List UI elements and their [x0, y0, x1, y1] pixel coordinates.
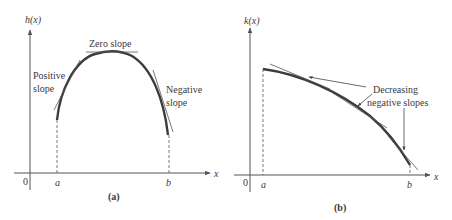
origin-label: 0: [243, 177, 248, 188]
a-label: a: [261, 179, 266, 190]
figure: h(x) x 0 a b Zero slope Positive slope N…: [0, 0, 452, 220]
a-label: a: [55, 177, 60, 188]
curve-h: [57, 51, 168, 135]
positive-slope-tangent: [54, 60, 80, 110]
negative-slopes-label: negative slopes: [367, 97, 428, 108]
positive-slope-label-2: slope: [33, 83, 55, 94]
negative-slope-label-1: Negative: [166, 84, 203, 95]
caption-a: (a): [108, 191, 120, 203]
origin-label: 0: [23, 176, 28, 187]
panel-a: h(x) x 0 a b Zero slope Positive slope N…: [14, 14, 219, 203]
x-axis-label: x: [213, 168, 219, 179]
b-label: b: [407, 179, 412, 190]
caption-b: (b): [334, 202, 346, 214]
positive-slope-label-1: Positive: [33, 70, 66, 81]
panel-b: k(x) x 0 a b Decreasing negative slopes …: [234, 15, 439, 214]
tangent-3: [388, 136, 418, 170]
y-axis-label: k(x): [244, 15, 260, 27]
x-axis-label: x: [433, 171, 439, 182]
zero-slope-label: Zero slope: [89, 38, 132, 49]
negative-slope-label-2: slope: [166, 97, 188, 108]
tangent-1: [270, 64, 330, 89]
y-axis-label: h(x): [25, 14, 42, 26]
decreasing-label: Decreasing: [373, 84, 418, 95]
b-label: b: [166, 177, 171, 188]
